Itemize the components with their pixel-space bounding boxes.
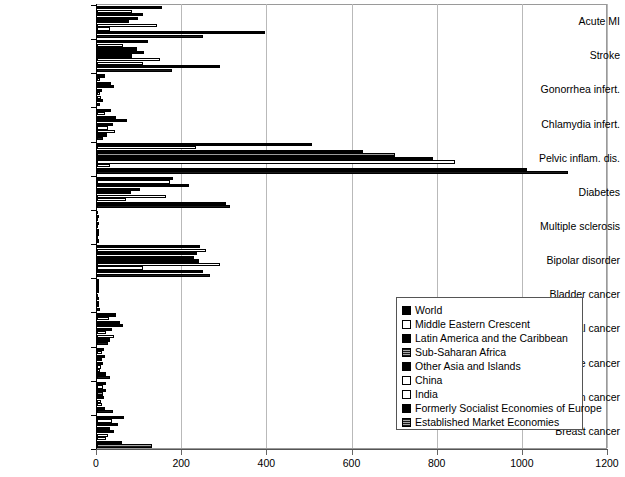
y-axis-label: Multiple sclerosis bbox=[528, 221, 620, 232]
y-tick bbox=[91, 73, 96, 74]
legend-label: China bbox=[415, 375, 442, 386]
bar bbox=[97, 444, 152, 447]
bar bbox=[97, 274, 210, 277]
bar bbox=[97, 205, 230, 208]
y-tick bbox=[91, 176, 96, 177]
x-tick bbox=[522, 450, 523, 455]
x-tick bbox=[181, 450, 182, 455]
y-tick bbox=[91, 5, 96, 6]
y-axis-label: Chlamydia infert. bbox=[528, 119, 620, 130]
legend-label: World bbox=[415, 305, 442, 316]
x-tick bbox=[607, 450, 608, 455]
y-tick bbox=[91, 449, 96, 450]
legend-label: Latin America and the Caribbean bbox=[415, 333, 568, 344]
legend-swatch-icon bbox=[402, 334, 411, 343]
y-tick bbox=[91, 381, 96, 382]
y-tick bbox=[91, 278, 96, 279]
y-axis-label: Diabetes bbox=[528, 187, 620, 198]
y-axis-label: Gonorrhea infert. bbox=[528, 84, 620, 95]
x-tick-label: 600 bbox=[322, 457, 382, 469]
gridline bbox=[352, 4, 353, 448]
legend-label: Middle Eastern Crescent bbox=[415, 319, 530, 330]
legend-swatch-icon bbox=[402, 404, 411, 413]
legend: WorldMiddle Eastern CrescentLatin Americ… bbox=[396, 297, 583, 430]
bar bbox=[97, 160, 455, 163]
legend-item[interactable]: Formerly Socialist Economies of Europe bbox=[402, 401, 582, 415]
legend-label: India bbox=[415, 389, 438, 400]
y-axis-label: Pelvic inflam. dis. bbox=[528, 153, 620, 164]
y-tick bbox=[91, 244, 96, 245]
x-tick bbox=[352, 450, 353, 455]
x-tick-label: 200 bbox=[151, 457, 211, 469]
legend-item[interactable]: China bbox=[402, 373, 582, 387]
legend-swatch-icon bbox=[402, 418, 411, 427]
y-tick bbox=[91, 210, 96, 211]
x-tick-label: 1200 bbox=[577, 457, 625, 469]
bar bbox=[97, 410, 113, 413]
legend-item[interactable]: Sub-Saharan Africa bbox=[402, 345, 582, 359]
gridline bbox=[266, 4, 267, 448]
x-tick-label: 0 bbox=[66, 457, 126, 469]
y-axis-label: Bipolar disorder bbox=[528, 255, 620, 266]
bar bbox=[97, 376, 110, 379]
y-axis-label: Acute MI bbox=[528, 16, 620, 27]
bar bbox=[97, 239, 99, 242]
legend-swatch-icon bbox=[402, 390, 411, 399]
legend-item[interactable]: India bbox=[402, 387, 582, 401]
legend-item[interactable]: Latin America and the Caribbean bbox=[402, 331, 582, 345]
legend-swatch-icon bbox=[402, 306, 411, 315]
legend-swatch-icon bbox=[402, 362, 411, 371]
legend-swatch-icon bbox=[402, 320, 411, 329]
y-tick bbox=[91, 415, 96, 416]
x-tick bbox=[437, 450, 438, 455]
x-tick bbox=[266, 450, 267, 455]
gridline bbox=[181, 4, 182, 448]
x-tick bbox=[96, 450, 97, 455]
bar bbox=[97, 137, 103, 140]
y-axis-label: Stroke bbox=[528, 50, 620, 61]
legend-item[interactable]: Middle Eastern Crescent bbox=[402, 317, 582, 331]
legend-item[interactable]: Other Asia and Islands bbox=[402, 359, 582, 373]
legend-label: Sub-Saharan Africa bbox=[415, 347, 506, 358]
y-tick bbox=[91, 39, 96, 40]
legend-swatch-icon bbox=[402, 376, 411, 385]
legend-label: Formerly Socialist Economies of Europe bbox=[415, 403, 602, 414]
x-tick-label: 1000 bbox=[492, 457, 552, 469]
bar bbox=[97, 308, 100, 311]
legend-label: Other Asia and Islands bbox=[415, 361, 521, 372]
bar bbox=[97, 103, 100, 106]
y-tick bbox=[91, 107, 96, 108]
x-tick-label: 800 bbox=[407, 457, 467, 469]
bar bbox=[97, 171, 568, 174]
y-tick bbox=[91, 347, 96, 348]
legend-item[interactable]: Established Market Economies bbox=[402, 415, 582, 429]
bar bbox=[97, 69, 172, 72]
legend-item[interactable]: World bbox=[402, 303, 582, 317]
y-tick bbox=[91, 142, 96, 143]
bar bbox=[97, 35, 203, 38]
legend-label: Established Market Economies bbox=[415, 417, 559, 428]
bar bbox=[97, 342, 108, 345]
x-tick-label: 400 bbox=[236, 457, 296, 469]
legend-swatch-icon bbox=[402, 348, 411, 357]
y-tick bbox=[91, 312, 96, 313]
